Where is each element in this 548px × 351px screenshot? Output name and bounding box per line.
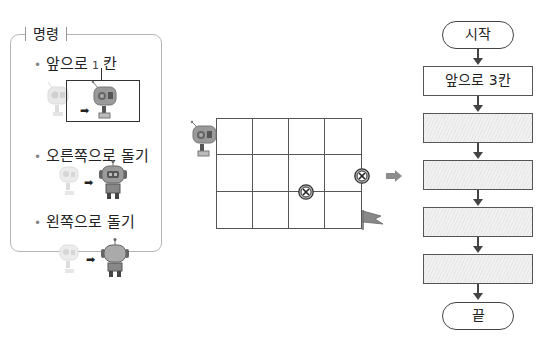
grid-cell xyxy=(217,192,253,228)
command-forward-suffix: 칸 xyxy=(103,55,117,73)
flow-arrow-icon xyxy=(473,58,483,65)
flowchart-step-4-blank[interactable] xyxy=(423,207,533,237)
flow-arrow-icon xyxy=(473,293,483,300)
robot-start-icon xyxy=(190,120,218,160)
obstacle-x-icon xyxy=(354,168,370,184)
grid-cell xyxy=(325,192,361,228)
flow-arrow-icon xyxy=(473,199,483,206)
flow-arrow-icon xyxy=(473,246,483,253)
flowchart-step-1: 앞으로 3칸 xyxy=(423,66,533,96)
movement-grid xyxy=(216,118,362,229)
robot-front-icon xyxy=(98,160,128,202)
flag-icon xyxy=(361,208,385,232)
flowchart-step-5-blank[interactable] xyxy=(423,254,533,284)
arrow-right-icon: ➡ xyxy=(86,253,95,266)
command-forward-number: 1 xyxy=(92,59,99,72)
command-turn-left-text: 왼쪽으로 돌기 xyxy=(46,213,135,231)
robot-back-icon xyxy=(100,238,130,280)
gray-arrow-right-icon xyxy=(386,170,402,182)
command-turn-left-label: •왼쪽으로 돌기 xyxy=(34,210,135,231)
grid-cell xyxy=(253,155,289,191)
robot-faded-icon xyxy=(57,162,81,200)
arrow-right-icon: ➡ xyxy=(84,176,93,189)
flowchart-step-3-blank[interactable] xyxy=(423,160,533,190)
robot-faded-icon xyxy=(57,240,81,278)
grid-cell xyxy=(253,119,289,155)
grid-cell xyxy=(217,155,253,191)
grid-cell xyxy=(325,119,361,155)
command-forward-label: •앞으로1칸 xyxy=(34,52,117,73)
bullet: • xyxy=(34,150,41,164)
grid-cell xyxy=(217,119,253,155)
flow-arrow-icon xyxy=(473,152,483,159)
flowchart-step-2-blank[interactable] xyxy=(423,113,533,143)
flowchart-start: 시작 xyxy=(442,21,514,49)
bullet: • xyxy=(34,216,41,230)
flowchart-end: 끝 xyxy=(442,302,514,330)
bullet: • xyxy=(34,58,41,72)
command-panel-title: 명령 xyxy=(25,24,67,44)
flow-arrow-icon xyxy=(473,105,483,112)
arrow-right-icon: ➡ xyxy=(80,104,89,117)
grid-cell xyxy=(253,192,289,228)
robot-icon xyxy=(90,80,118,122)
command-turn-right-label: •오른쪽으로 돌기 xyxy=(34,144,149,165)
obstacle-x-icon xyxy=(298,184,314,200)
grid-cell xyxy=(289,119,325,155)
command-forward-text: 앞으로 xyxy=(46,55,88,73)
